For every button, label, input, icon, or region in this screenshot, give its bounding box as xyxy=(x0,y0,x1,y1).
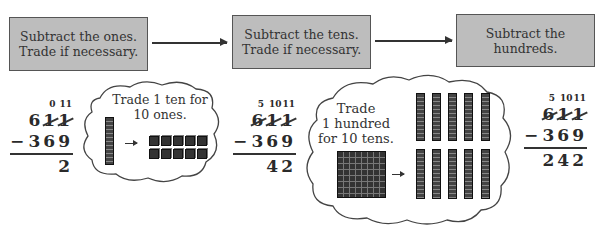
subtrahend-row: −369 xyxy=(524,125,587,146)
step-ones-line2: Trade if necessary. xyxy=(19,44,138,59)
subtrahend: 369 xyxy=(543,125,588,146)
cloud-1-line1: Trade 1 ten for xyxy=(110,92,210,107)
minuend-row: 611 xyxy=(233,110,296,131)
sum-line xyxy=(524,147,587,149)
ten-rod-icon xyxy=(464,149,473,199)
ten-rod-icon xyxy=(448,149,457,199)
carry-ones: 11 xyxy=(282,99,295,109)
digit-hundreds: 6 xyxy=(28,110,43,130)
step-hundreds-line1: Subtract the xyxy=(486,26,566,41)
minuend-row: 611 xyxy=(10,110,73,131)
subtraction-problem-1: 011 611 −369 2 xyxy=(10,99,73,177)
carry-row: 51011 xyxy=(524,93,587,104)
hundred-flat-icon xyxy=(337,151,386,198)
carry-hundreds: 5 xyxy=(258,99,264,109)
carry-tens: 10 xyxy=(269,99,282,109)
subtrahend-row: −369 xyxy=(233,131,296,152)
digit-hundreds-struck: 6 xyxy=(251,110,266,131)
unit-cube-icon xyxy=(197,136,207,146)
minus-sign: − xyxy=(524,125,541,146)
cloud-2-line2: 1 hundred xyxy=(312,116,400,131)
subtrahend-row: −369 xyxy=(10,131,73,152)
cloud-2-line1: Trade xyxy=(312,101,400,116)
cloud-2-line3: for 10 tens. xyxy=(312,131,400,146)
digit-tens-struck: 1 xyxy=(266,110,281,131)
step-box-hundreds: Subtract the hundreds. xyxy=(456,14,595,67)
step-tens-line2: Trade if necessary. xyxy=(242,42,361,57)
digit-tens-struck: 1 xyxy=(557,104,572,125)
digit-ones-struck: 1 xyxy=(281,110,296,131)
carry-tens: 0 xyxy=(49,99,55,109)
unit-cube-icon xyxy=(149,136,159,146)
subtraction-problem-2: 51011 611 −369 42 xyxy=(233,99,296,177)
minus-sign: − xyxy=(10,131,27,152)
cloud-2-text: Trade 1 hundred for 10 tens. xyxy=(312,101,400,146)
unit-cube-icon xyxy=(197,149,207,159)
carry-row: 011 xyxy=(10,99,73,110)
subtrahend: 369 xyxy=(29,131,74,152)
unit-cube-icon xyxy=(161,149,171,159)
carry-hundreds: 5 xyxy=(549,93,555,103)
carry-tens: 10 xyxy=(560,93,573,103)
ten-rod-icon xyxy=(432,149,441,199)
digit-hundreds-struck: 6 xyxy=(542,104,557,125)
step-box-tens: Subtract the tens. Trade if necessary. xyxy=(232,15,371,69)
subtrahend: 369 xyxy=(252,131,297,152)
step-box-ones: Subtract the ones. Trade if necessary. xyxy=(9,17,148,71)
sum-line xyxy=(233,153,296,155)
unit-cube-icon xyxy=(185,149,195,159)
carry-ones: 11 xyxy=(59,99,72,109)
digit-ones-struck: 1 xyxy=(58,110,73,131)
subtraction-problem-3: 51011 611 −369 242 xyxy=(524,93,587,171)
ten-rod-icon xyxy=(416,93,425,141)
ten-rod-icon xyxy=(416,149,425,199)
carry-row: 51011 xyxy=(233,99,296,110)
cloud-1-text: Trade 1 ten for 10 ones. xyxy=(110,92,210,122)
arrow-right-icon xyxy=(152,42,227,44)
minus-sign: − xyxy=(233,131,250,152)
minuend-row: 611 xyxy=(524,104,587,125)
step-hundreds-line2: hundreds. xyxy=(486,41,566,56)
unit-cube-icon xyxy=(149,149,159,159)
ten-rod-icon xyxy=(464,93,473,141)
difference: 42 xyxy=(233,156,296,177)
ten-rod-icon xyxy=(481,149,490,199)
ten-rod-icon xyxy=(481,93,490,141)
ten-rod-icon xyxy=(105,117,114,165)
digit-ones-struck: 1 xyxy=(572,104,587,125)
difference: 242 xyxy=(524,150,587,171)
unit-cube-icon xyxy=(173,149,183,159)
unit-cube-icon xyxy=(173,136,183,146)
step-tens-line1: Subtract the tens. xyxy=(242,27,361,42)
carry-ones: 11 xyxy=(573,93,586,103)
difference: 2 xyxy=(10,156,73,177)
sum-line xyxy=(10,153,73,155)
arrow-right-icon xyxy=(392,174,404,175)
unit-cube-icon xyxy=(161,136,171,146)
unit-cube-icon xyxy=(185,136,195,146)
digit-tens-struck: 1 xyxy=(43,110,58,131)
arrow-right-icon xyxy=(375,40,452,42)
ten-rod-icon xyxy=(448,93,457,141)
arrow-right-icon xyxy=(125,143,137,144)
step-ones-line1: Subtract the ones. xyxy=(19,29,138,44)
cloud-1-line2: 10 ones. xyxy=(110,107,210,122)
ten-rod-icon xyxy=(432,93,441,141)
